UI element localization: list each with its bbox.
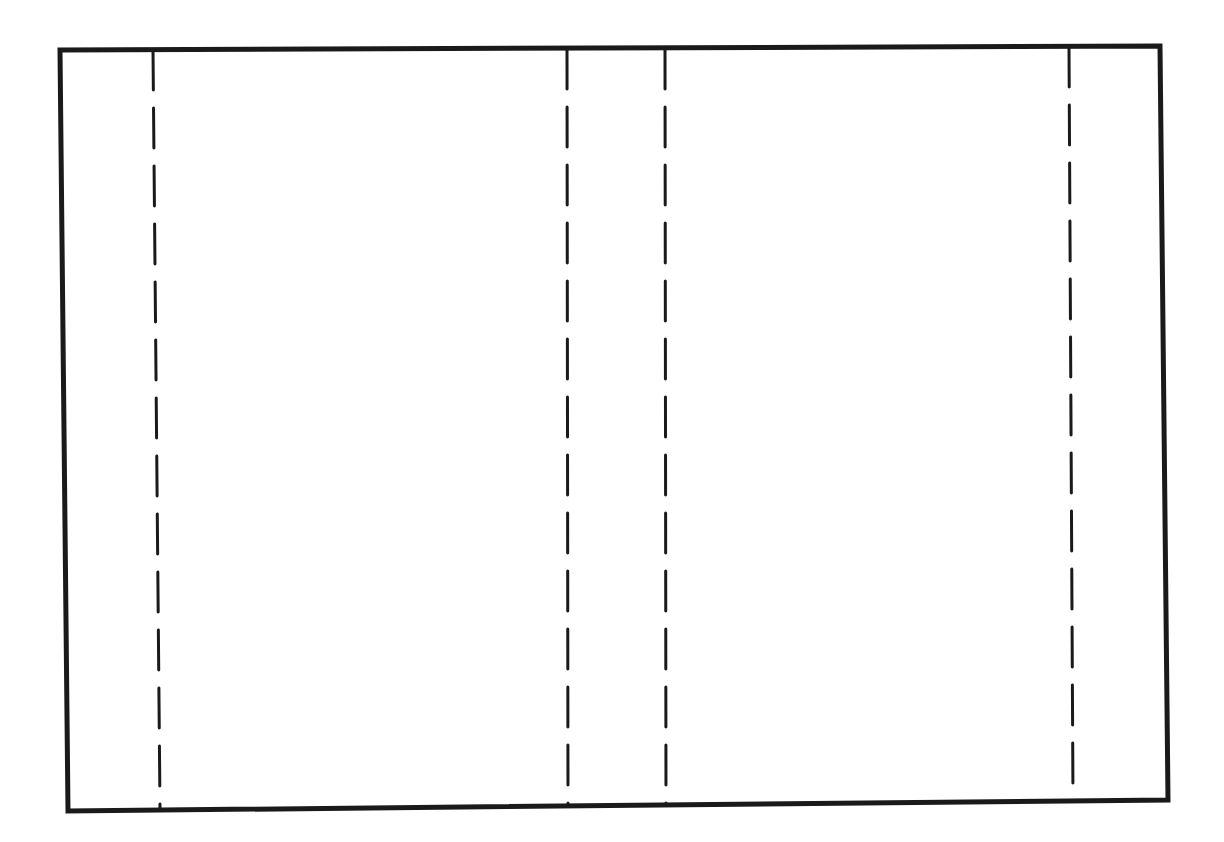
outer-rectangle	[60, 46, 1168, 811]
dashed-fold-line-2	[567, 49, 568, 804]
diagram-canvas	[0, 0, 1224, 842]
dashed-fold-line-4	[1069, 47, 1073, 800]
dashed-fold-line-3	[665, 49, 666, 803]
dashed-fold-line-1	[153, 50, 160, 808]
fold-lines-group	[153, 47, 1073, 808]
